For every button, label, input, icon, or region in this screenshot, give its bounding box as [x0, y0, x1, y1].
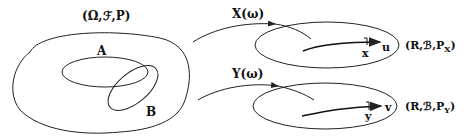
- axis-y-point-label: y: [364, 110, 372, 123]
- event-a-region: [62, 57, 148, 87]
- range-x-label: (R,ℬ,PX): [405, 39, 456, 54]
- map-y-arrow-tail: [278, 86, 314, 100]
- range-y-label: (R,ℬ,PY): [405, 100, 455, 115]
- sample-space-label: (Ω,ℱ,P): [82, 9, 130, 23]
- event-a-label: A: [96, 44, 107, 58]
- map-x-arrow: [193, 24, 275, 42]
- axis-y-end-label: v: [384, 101, 392, 114]
- map-x-arrow-tail: [275, 24, 311, 39]
- probability-mapping-diagram: (Ω,ℱ,P) A B X(ω) Y(ω) u x v y (R,ℬ,PX) (…: [0, 0, 464, 139]
- map-x-label: X(ω): [232, 7, 264, 21]
- event-b-label: B: [146, 105, 156, 119]
- map-y-label: Y(ω): [231, 67, 263, 81]
- axis-x-end-label: u: [382, 41, 390, 54]
- axis-x-point-label: x: [362, 47, 369, 60]
